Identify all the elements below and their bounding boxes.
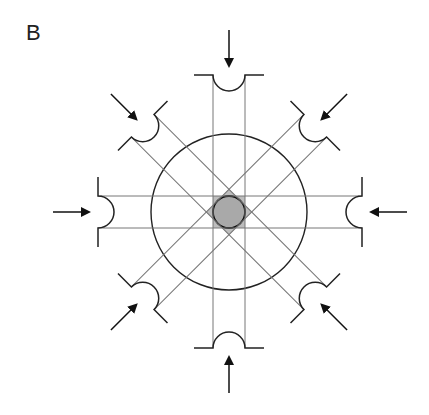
band-line: [218, 223, 304, 309]
band-line: [154, 223, 240, 309]
band-line: [240, 201, 326, 287]
jaw-cup: [194, 75, 264, 91]
jaw-cup: [194, 332, 264, 348]
arrow-icon: [111, 94, 136, 119]
jaw-cup: [98, 177, 114, 247]
band-line: [218, 114, 304, 200]
jaw-right: [229, 177, 407, 247]
jaw-left: [53, 177, 229, 247]
arrow-icon: [111, 305, 136, 330]
band-line: [131, 137, 217, 223]
jaw-bottom: [194, 212, 264, 393]
arrow-icon: [322, 94, 347, 119]
band-line: [240, 137, 326, 223]
band-line: [154, 114, 240, 200]
jaw-cup: [346, 177, 362, 247]
arrow-icon: [322, 305, 347, 330]
compression-diagram: [0, 0, 429, 415]
jaw-top: [194, 30, 264, 212]
band-line: [131, 201, 217, 287]
